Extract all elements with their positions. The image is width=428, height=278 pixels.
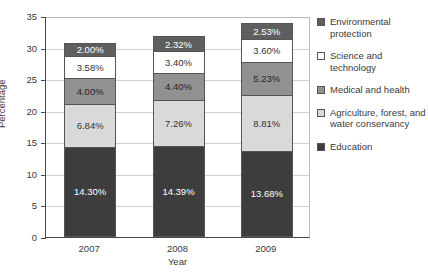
bar-segment[interactable]: 5.23% — [241, 62, 293, 95]
legend-item[interactable]: Medical and health — [317, 84, 428, 96]
x-axis-tick-label: 2008 — [143, 243, 213, 254]
bar-segment-value-label: 14.30% — [74, 187, 106, 197]
legend-item[interactable]: Education — [317, 141, 428, 153]
bar-segment-value-label: 3.40% — [165, 58, 192, 68]
bar-segment[interactable]: 2.32% — [153, 36, 205, 51]
bar-segment-value-label: 2.32% — [165, 40, 192, 50]
bar-segment-value-label: 14.39% — [162, 187, 194, 197]
stacked-bar-chart: Percentage 05101520253035 2.00%3.58%4.00… — [0, 0, 428, 278]
bar-group-2008[interactable]: 2.32%3.40%4.40%7.26%14.39% — [153, 36, 205, 237]
legend-swatch-icon — [317, 18, 325, 26]
bar-segment[interactable]: 3.58% — [64, 56, 116, 79]
y-axis-tick-label: 10 — [8, 170, 37, 180]
bar-segment-value-label: 2.00% — [77, 45, 104, 55]
bar-group-2009[interactable]: 2.53%3.60%5.23%8.81%13.68% — [241, 23, 293, 237]
bar-segment[interactable]: 14.30% — [64, 147, 116, 237]
bar-segment-value-label: 13.68% — [251, 189, 283, 199]
legend-item[interactable]: Environmental protection — [317, 16, 428, 39]
legend: Environmental protectionScience and tech… — [317, 16, 428, 163]
legend-item[interactable]: Agriculture, forest, and water conservan… — [317, 107, 428, 130]
bars-layer: 2.00%3.58%4.00%6.84%14.30%2.32%3.40%4.40… — [46, 18, 309, 237]
bar-segment[interactable]: 8.81% — [241, 95, 293, 151]
legend-item[interactable]: Science and technology — [317, 50, 428, 73]
y-axis-tick-label: 25 — [8, 75, 37, 85]
bar-segment[interactable]: 3.60% — [241, 39, 293, 62]
legend-swatch-icon — [317, 86, 325, 94]
legend-item-label: Education — [330, 141, 372, 153]
y-axis-tick-label: 0 — [8, 233, 37, 243]
plot-area: 2.00%3.58%4.00%6.84%14.30%2.32%3.40%4.40… — [45, 17, 310, 238]
y-axis-tick-label: 5 — [8, 202, 37, 212]
bar-segment[interactable]: 7.26% — [153, 100, 205, 146]
bar-group-2007[interactable]: 2.00%3.58%4.00%6.84%14.30% — [64, 43, 116, 237]
bar-segment-value-label: 5.23% — [253, 74, 280, 84]
bar-segment-value-label: 4.40% — [165, 82, 192, 92]
bar-segment[interactable]: 6.84% — [64, 104, 116, 147]
y-axis-title: Percentage — [0, 79, 7, 128]
bar-segment-value-label: 8.81% — [253, 119, 280, 129]
bar-segment[interactable]: 3.40% — [153, 51, 205, 72]
y-axis-tick — [41, 238, 46, 239]
bar-segment-value-label: 7.26% — [165, 119, 192, 129]
bar-segment[interactable]: 2.53% — [241, 23, 293, 39]
y-axis-tick-label: 35 — [8, 12, 37, 22]
bar-segment[interactable]: 13.68% — [241, 151, 293, 237]
y-axis-tick-label: 20 — [8, 107, 37, 117]
y-axis-tick-label: 30 — [8, 44, 37, 54]
bar-segment-value-label: 4.00% — [77, 87, 104, 97]
x-axis-tick-label: 2007 — [54, 243, 124, 254]
legend-swatch-icon — [317, 52, 325, 60]
bar-segment-value-label: 3.58% — [77, 63, 104, 73]
bar-segment-value-label: 3.60% — [253, 46, 280, 56]
x-axis-title: Year — [45, 256, 310, 267]
y-axis-tick-label: 15 — [8, 139, 37, 149]
legend-item-label: Environmental protection — [330, 16, 428, 39]
x-axis-tick-label: 2009 — [231, 243, 301, 254]
legend-item-label: Science and technology — [330, 50, 428, 73]
legend-swatch-icon — [317, 143, 325, 151]
bar-segment[interactable]: 4.40% — [153, 73, 205, 101]
bar-segment[interactable]: 2.00% — [64, 43, 116, 56]
bar-segment[interactable]: 14.39% — [153, 146, 205, 237]
legend-item-label: Medical and health — [330, 84, 410, 96]
bar-segment-value-label: 6.84% — [77, 121, 104, 131]
bar-segment[interactable]: 4.00% — [64, 78, 116, 103]
legend-item-label: Agriculture, forest, and water conservan… — [330, 107, 428, 130]
legend-swatch-icon — [317, 109, 325, 117]
bar-segment-value-label: 2.53% — [253, 27, 280, 37]
